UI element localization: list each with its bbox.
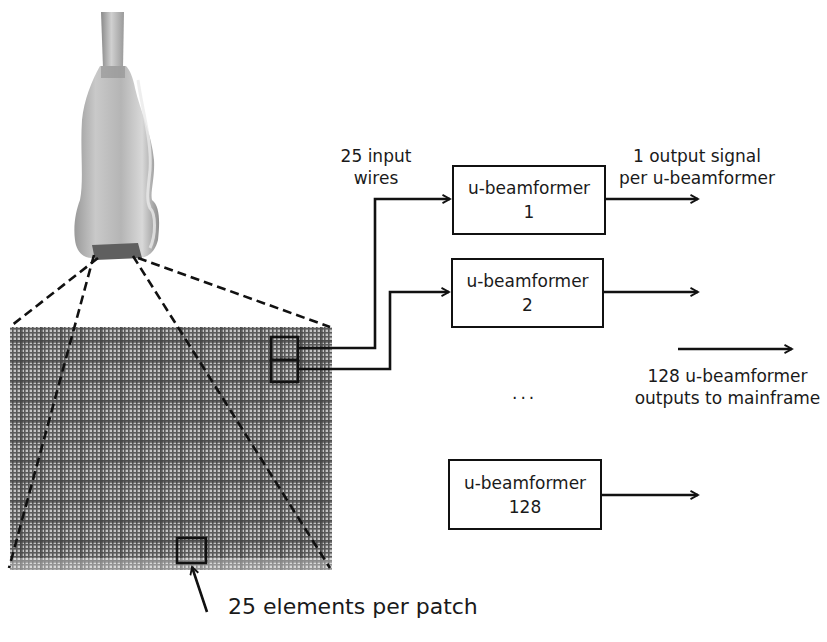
patch-caption: 25 elements per patch — [228, 596, 478, 618]
u-beamformer-128-index: 128 — [509, 495, 541, 519]
output-signal-label: 1 output signal per u-beamformer — [612, 145, 782, 189]
ultrasound-probe-icon — [74, 12, 159, 260]
patch-pointer-arrow — [192, 567, 207, 612]
output-signal-line-1: 1 output signal — [612, 145, 782, 167]
transducer-array-icon — [10, 327, 332, 570]
u-beamformer-128-name: u-beamformer — [464, 471, 586, 495]
diagram-graphics — [0, 0, 827, 642]
u-beamformer-2-name: u-beamformer — [466, 269, 588, 293]
mainframe-outputs-line-2: outputs to mainframe — [630, 387, 825, 409]
input-wires-line-1: 25 input — [336, 145, 416, 167]
input-wires-label: 25 input wires — [336, 145, 416, 189]
mainframe-outputs-line-1: 128 u-beamformer — [630, 365, 825, 387]
output-signal-line-2: per u-beamformer — [612, 167, 782, 189]
output-arrows — [602, 199, 792, 495]
u-beamformer-1-index: 1 — [524, 200, 535, 224]
beamformer-diagram: 25 input wires 1 output signal per u-bea… — [0, 0, 827, 642]
u-beamformer-128-box: u-beamformer 128 — [448, 459, 602, 530]
u-beamformer-2-box: u-beamformer 2 — [451, 258, 604, 328]
u-beamformer-1-name: u-beamformer — [468, 176, 590, 200]
u-beamformer-1-box: u-beamformer 1 — [452, 165, 606, 235]
input-wires-line-2: wires — [336, 167, 416, 189]
ellipsis: ... — [512, 382, 537, 404]
u-beamformer-2-index: 2 — [522, 293, 533, 317]
mainframe-outputs-label: 128 u-beamformer outputs to mainframe — [630, 365, 825, 409]
